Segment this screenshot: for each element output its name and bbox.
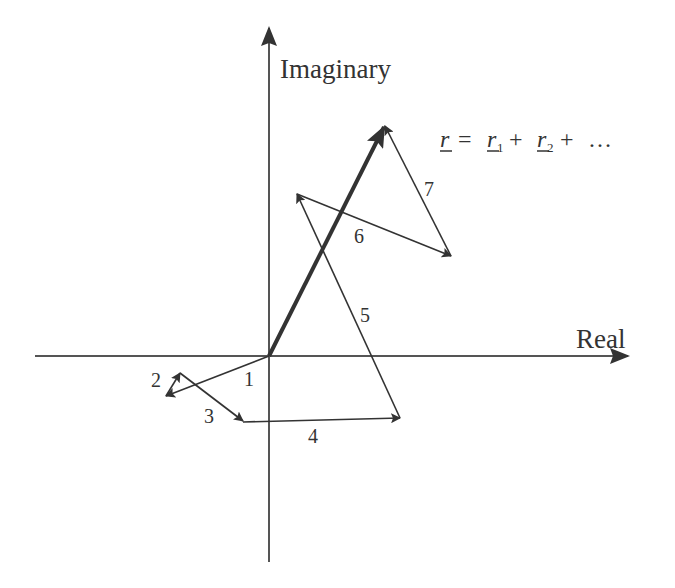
vector-6 <box>297 194 451 256</box>
vector-label-7: 7 <box>424 178 434 200</box>
vector-label-1: 1 <box>244 368 254 390</box>
vector-label-6: 6 <box>354 225 364 247</box>
formula-ellipsis: … <box>588 126 612 152</box>
vector-label-4: 4 <box>308 425 318 447</box>
formula-term2: r <box>537 126 547 152</box>
axes <box>35 28 628 562</box>
formula-term1-sub: 1 <box>497 140 504 155</box>
vector-4 <box>243 418 400 422</box>
formula-plus2: + <box>560 126 574 152</box>
vector-label-5: 5 <box>360 304 370 326</box>
phasor-diagram: Imaginary Real r = r 1 + r 2 + … 1 2 3 4… <box>0 0 675 588</box>
formula-equals: = <box>458 126 472 152</box>
formula-term1: r <box>487 126 497 152</box>
vector-label-2: 2 <box>151 369 161 391</box>
imaginary-axis-label: Imaginary <box>280 54 391 84</box>
sum-formula: r = r 1 + r 2 + … <box>440 126 612 155</box>
formula-plus1: + <box>509 126 523 152</box>
real-axis-label: Real <box>576 324 625 354</box>
formula-term2-sub: 2 <box>547 140 554 155</box>
vector-5 <box>297 194 400 418</box>
formula-lhs: r <box>440 126 450 152</box>
vector-label-3: 3 <box>204 405 214 427</box>
